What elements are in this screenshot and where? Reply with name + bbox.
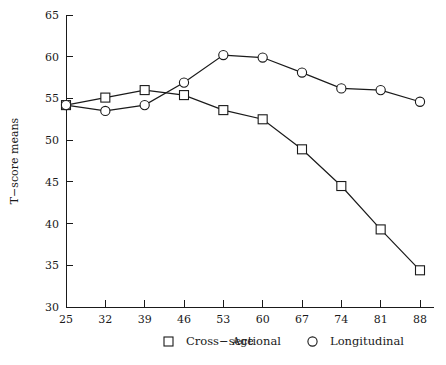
x-tick-label: 32: [98, 313, 112, 326]
y-tick-label: 55: [45, 92, 59, 105]
x-tick-label: 53: [216, 313, 230, 326]
square-marker-icon: [337, 182, 346, 191]
series-line: [66, 90, 420, 270]
x-tick-label: 25: [59, 313, 73, 326]
legend-item-2: Longitudinal: [308, 334, 404, 348]
y-tick-label: 45: [45, 176, 59, 189]
y-tick-label: 40: [45, 218, 59, 231]
x-tick-label: 39: [138, 313, 152, 326]
circle-marker-icon: [179, 78, 188, 87]
square-marker-icon: [140, 86, 149, 95]
chart-container: 3035404550556065 25323946536067748188 Ag…: [0, 0, 446, 365]
series-2: [61, 50, 424, 115]
x-tick-label: 74: [334, 313, 348, 326]
square-marker-icon: [219, 106, 228, 115]
series-line: [66, 55, 420, 111]
circle-marker-icon: [219, 50, 228, 59]
square-marker-icon: [376, 225, 385, 234]
circle-marker-icon: [415, 97, 424, 106]
legend-item-1: Cross−sectional: [164, 334, 281, 348]
circle-marker-icon: [297, 68, 306, 77]
y-tick-label: 60: [45, 51, 59, 64]
square-marker-icon: [298, 145, 307, 154]
y-tick-label: 30: [45, 301, 59, 314]
chart-legend: Cross−sectionalLongitudinal: [164, 334, 404, 348]
square-marker-icon: [416, 266, 425, 275]
x-tick-label: 67: [295, 313, 309, 326]
circle-marker-icon: [308, 337, 317, 346]
x-tick-label: 46: [177, 313, 191, 326]
square-marker-icon: [180, 91, 189, 100]
x-tick-label: 81: [374, 313, 388, 326]
square-marker-icon: [101, 93, 110, 102]
circle-marker-icon: [140, 101, 149, 110]
series-1: [62, 86, 425, 275]
square-marker-icon: [164, 337, 173, 346]
y-axis-title: T−score means: [8, 117, 21, 204]
y-tick-label: 50: [45, 134, 59, 147]
legend-label: Longitudinal: [330, 334, 404, 348]
legend-label: Cross−sectional: [186, 334, 281, 348]
line-chart: 3035404550556065 25323946536067748188 Ag…: [0, 0, 446, 365]
y-tick-label: 35: [45, 259, 59, 272]
circle-marker-icon: [337, 84, 346, 93]
circle-marker-icon: [258, 53, 267, 62]
y-axis: 3035404550556065: [45, 9, 73, 314]
x-tick-label: 88: [413, 313, 427, 326]
square-marker-icon: [258, 115, 267, 124]
circle-marker-icon: [61, 101, 70, 110]
circle-marker-icon: [101, 106, 110, 115]
series-layer: [61, 50, 424, 274]
x-axis: 25323946536067748188: [59, 300, 434, 326]
y-tick-label: 65: [45, 9, 59, 22]
circle-marker-icon: [376, 85, 385, 94]
x-tick-label: 60: [256, 313, 270, 326]
